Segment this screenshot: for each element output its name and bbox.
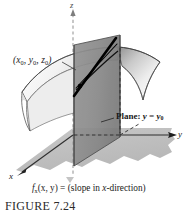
axis-label-y: y — [178, 130, 182, 139]
axis-label-x: x — [9, 172, 13, 181]
point-coordinates-text: (x0, y0, z0) — [13, 55, 52, 65]
point-coordinates-label: (x0, y0, z0) — [13, 56, 52, 66]
plane-annotation-prefix: Plane: — [116, 111, 143, 121]
caption-fn-args: (x, y) = (slope in — [38, 183, 103, 193]
surface-right-wing — [118, 47, 160, 100]
axis-label-z: z — [70, 1, 73, 10]
point-marker — [78, 84, 82, 88]
plane-annotation-equals: = — [147, 111, 157, 121]
plane-annotation-value-sub: 0 — [160, 115, 163, 121]
figure-caption-formula: fx(x, y) = (slope in x-direction) — [32, 184, 146, 194]
caption-fn-tail: -direction) — [106, 183, 145, 193]
plane-annotation-label: Plane: y = y0 — [116, 112, 163, 122]
figure-number: FIGURE 7.24 — [5, 200, 76, 212]
figure-container: (x0, y0, z0) Plane: y = y0 z y x fx(x, y… — [0, 0, 189, 218]
